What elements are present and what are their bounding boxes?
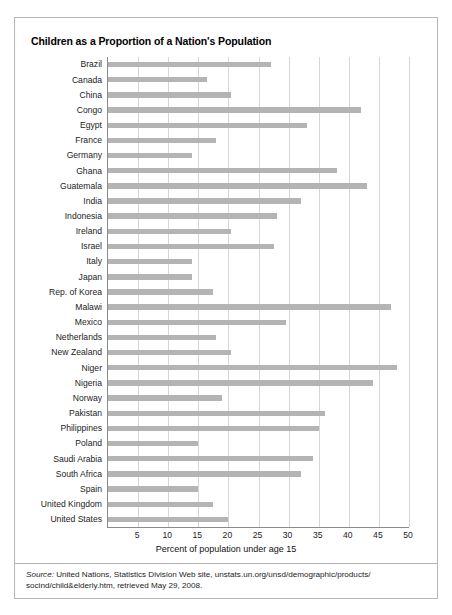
bar: [108, 471, 301, 476]
bar: [108, 138, 216, 143]
x-tick-label: 40: [343, 530, 353, 540]
y-axis-label: Nigeria: [75, 378, 102, 388]
x-tick-label: 50: [403, 530, 413, 540]
bar: [108, 183, 367, 188]
bar: [108, 395, 222, 400]
bars-canvas: [107, 57, 409, 527]
chart-figure: Children as a Proportion of a Nation's P…: [14, 17, 438, 599]
y-axis-label: Japan: [79, 272, 102, 282]
bar: [108, 289, 213, 294]
y-axis-label: Guatemala: [60, 181, 102, 191]
source-text: United Nations, Statistics Division Web …: [26, 570, 370, 590]
y-axis-label: Niger: [81, 363, 102, 373]
y-axis-label: Indonesia: [65, 211, 102, 221]
y-axis-label: Canada: [72, 75, 102, 85]
gridline: [409, 57, 410, 527]
y-axis-label: Ireland: [76, 226, 102, 236]
y-axis-label: India: [83, 196, 102, 206]
y-axis-label: United States: [50, 514, 102, 524]
bar: [108, 62, 271, 67]
y-axis-label: Congo: [77, 105, 102, 115]
bar: [108, 411, 325, 416]
bar: [108, 350, 231, 355]
bar: [108, 107, 361, 112]
x-tick-label: 45: [373, 530, 383, 540]
y-axis-label: South Africa: [56, 469, 102, 479]
y-axis-label: New Zealand: [51, 347, 102, 357]
bar: [108, 380, 373, 385]
bar: [108, 441, 198, 446]
x-tick-label: 10: [162, 530, 172, 540]
y-axis-label: Mexico: [75, 317, 102, 327]
y-axis-label: Brazil: [81, 59, 103, 69]
bar: [108, 123, 307, 128]
bar: [108, 502, 213, 507]
bar: [108, 259, 192, 264]
gridline: [379, 57, 380, 527]
x-tick-label: 5: [135, 530, 140, 540]
y-axis-label: France: [75, 135, 102, 145]
plot-area: BrazilCanadaChinaCongoEgyptFranceGermany…: [15, 57, 437, 527]
gridline: [319, 57, 320, 527]
x-tick-label: 25: [253, 530, 263, 540]
source-note: Source: United Nations, Statistics Divis…: [26, 569, 426, 591]
x-tick-label: 15: [193, 530, 203, 540]
bar: [108, 426, 319, 431]
y-axis-label: Italy: [86, 256, 102, 266]
x-tick-label: 30: [283, 530, 293, 540]
y-axis-label: Philippines: [60, 423, 102, 433]
bar: [108, 244, 274, 249]
x-tick-label: 35: [313, 530, 323, 540]
bar: [108, 198, 301, 203]
bar: [108, 517, 228, 522]
bar: [108, 335, 216, 340]
bar: [108, 304, 391, 309]
source-label: Source:: [26, 570, 54, 579]
bar: [108, 92, 231, 97]
bar: [108, 213, 277, 218]
y-axis-label: United Kingdom: [41, 499, 102, 509]
bar: [108, 229, 231, 234]
y-axis-label: Norway: [73, 393, 102, 403]
x-axis-title: Percent of population under age 15: [15, 544, 437, 554]
y-axis-label: Ghana: [76, 166, 102, 176]
bar: [108, 168, 337, 173]
y-axis-label: Rep. of Korea: [49, 287, 102, 297]
page-title: Children as a Proportion of a Nation's P…: [31, 35, 271, 47]
y-axis-label: Saudi Arabia: [53, 454, 102, 464]
y-axis-label: China: [80, 90, 102, 100]
gridline: [349, 57, 350, 527]
y-axis-category-labels: BrazilCanadaChinaCongoEgyptFranceGermany…: [15, 57, 106, 527]
y-axis-label: Poland: [75, 438, 102, 448]
x-axis-line: [107, 527, 409, 528]
divider: [15, 563, 437, 564]
bar: [108, 486, 198, 491]
y-axis-label: Netherlands: [56, 332, 102, 342]
bar: [108, 274, 192, 279]
y-axis-label: Egypt: [80, 120, 102, 130]
x-tick-label: 20: [223, 530, 233, 540]
y-axis-label: Israel: [81, 241, 102, 251]
y-axis-label: Germany: [67, 150, 102, 160]
bar: [108, 456, 313, 461]
y-axis-label: Spain: [80, 484, 102, 494]
bar: [108, 320, 286, 325]
bar: [108, 153, 192, 158]
y-axis-label: Malawi: [75, 302, 102, 312]
y-axis-label: Pakistan: [69, 408, 102, 418]
bar: [108, 365, 397, 370]
bar: [108, 77, 207, 82]
